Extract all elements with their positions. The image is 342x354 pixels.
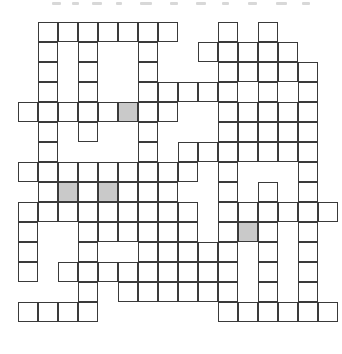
crossword-cell[interactable] xyxy=(18,262,38,282)
crossword-cell[interactable] xyxy=(138,82,158,102)
crossword-cell[interactable] xyxy=(178,242,198,262)
crossword-cell[interactable] xyxy=(218,202,238,222)
crossword-cell[interactable] xyxy=(318,202,338,222)
crossword-cell[interactable] xyxy=(238,142,258,162)
crossword-cell[interactable] xyxy=(38,142,58,162)
crossword-cell[interactable] xyxy=(138,262,158,282)
crossword-cell[interactable] xyxy=(118,182,138,202)
crossword-cell[interactable] xyxy=(298,202,318,222)
crossword-cell[interactable] xyxy=(98,222,118,242)
crossword-cell[interactable] xyxy=(298,282,318,302)
crossword-cell[interactable] xyxy=(38,22,58,42)
crossword-cell[interactable] xyxy=(298,82,318,102)
crossword-cell[interactable] xyxy=(218,222,238,242)
crossword-cell-shaded[interactable] xyxy=(118,102,138,122)
crossword-cell[interactable] xyxy=(38,102,58,122)
crossword-cell[interactable] xyxy=(258,282,278,302)
crossword-cell[interactable] xyxy=(98,102,118,122)
crossword-cell[interactable] xyxy=(98,22,118,42)
crossword-cell[interactable] xyxy=(58,162,78,182)
crossword-cell[interactable] xyxy=(258,122,278,142)
crossword-cell[interactable] xyxy=(118,162,138,182)
crossword-cell[interactable] xyxy=(158,202,178,222)
crossword-cell[interactable] xyxy=(138,162,158,182)
crossword-cell[interactable] xyxy=(218,102,238,122)
crossword-cell[interactable] xyxy=(98,202,118,222)
crossword-cell[interactable] xyxy=(278,302,298,322)
crossword-cell[interactable] xyxy=(18,102,38,122)
crossword-cell[interactable] xyxy=(78,242,98,262)
crossword-cell[interactable] xyxy=(178,222,198,242)
crossword-cell[interactable] xyxy=(78,222,98,242)
crossword-cell[interactable] xyxy=(258,302,278,322)
crossword-cell[interactable] xyxy=(138,122,158,142)
crossword-cell[interactable] xyxy=(198,82,218,102)
crossword-cell[interactable] xyxy=(98,262,118,282)
crossword-cell[interactable] xyxy=(278,202,298,222)
crossword-cell[interactable] xyxy=(78,182,98,202)
crossword-cell[interactable] xyxy=(58,102,78,122)
crossword-cell[interactable] xyxy=(278,122,298,142)
crossword-cell[interactable] xyxy=(218,62,238,82)
crossword-cell[interactable] xyxy=(158,182,178,202)
crossword-cell[interactable] xyxy=(218,122,238,142)
crossword-cell[interactable] xyxy=(298,162,318,182)
crossword-cell[interactable] xyxy=(198,282,218,302)
crossword-cell[interactable] xyxy=(78,282,98,302)
crossword-cell[interactable] xyxy=(98,162,118,182)
crossword-cell[interactable] xyxy=(18,222,38,242)
crossword-cell[interactable] xyxy=(218,182,238,202)
crossword-cell[interactable] xyxy=(258,262,278,282)
crossword-cell[interactable] xyxy=(138,282,158,302)
crossword-cell[interactable] xyxy=(178,282,198,302)
crossword-cell[interactable] xyxy=(58,202,78,222)
crossword-cell-shaded[interactable] xyxy=(58,182,78,202)
crossword-cell[interactable] xyxy=(18,202,38,222)
crossword-cell[interactable] xyxy=(258,82,278,102)
crossword-cell[interactable] xyxy=(38,122,58,142)
crossword-grid[interactable] xyxy=(18,22,338,342)
crossword-cell[interactable] xyxy=(78,102,98,122)
crossword-cell[interactable] xyxy=(218,162,238,182)
crossword-cell[interactable] xyxy=(158,262,178,282)
crossword-cell[interactable] xyxy=(258,202,278,222)
crossword-cell[interactable] xyxy=(258,142,278,162)
crossword-cell[interactable] xyxy=(78,122,98,142)
crossword-cell[interactable] xyxy=(158,242,178,262)
crossword-cell[interactable] xyxy=(38,42,58,62)
crossword-cell[interactable] xyxy=(158,162,178,182)
crossword-cell[interactable] xyxy=(278,62,298,82)
crossword-cell[interactable] xyxy=(138,102,158,122)
crossword-cell[interactable] xyxy=(218,282,238,302)
crossword-cell[interactable] xyxy=(118,22,138,42)
crossword-cell[interactable] xyxy=(198,242,218,262)
crossword-cell[interactable] xyxy=(218,42,238,62)
crossword-cell[interactable] xyxy=(298,62,318,82)
crossword-cell[interactable] xyxy=(138,142,158,162)
crossword-cell[interactable] xyxy=(178,142,198,162)
crossword-cell[interactable] xyxy=(38,302,58,322)
crossword-cell[interactable] xyxy=(298,182,318,202)
crossword-cell[interactable] xyxy=(138,222,158,242)
crossword-cell[interactable] xyxy=(78,202,98,222)
crossword-cell[interactable] xyxy=(218,22,238,42)
crossword-cell[interactable] xyxy=(118,202,138,222)
crossword-cell[interactable] xyxy=(238,62,258,82)
crossword-cell[interactable] xyxy=(38,162,58,182)
crossword-cell[interactable] xyxy=(118,262,138,282)
crossword-cell[interactable] xyxy=(238,202,258,222)
crossword-cell-shaded[interactable] xyxy=(98,182,118,202)
crossword-cell[interactable] xyxy=(58,22,78,42)
crossword-cell[interactable] xyxy=(218,302,238,322)
crossword-cell[interactable] xyxy=(38,62,58,82)
crossword-cell[interactable] xyxy=(238,42,258,62)
crossword-cell[interactable] xyxy=(138,62,158,82)
crossword-cell-shaded[interactable] xyxy=(238,222,258,242)
crossword-cell[interactable] xyxy=(158,22,178,42)
crossword-cell[interactable] xyxy=(58,302,78,322)
crossword-cell[interactable] xyxy=(38,82,58,102)
crossword-cell[interactable] xyxy=(298,102,318,122)
crossword-cell[interactable] xyxy=(138,242,158,262)
crossword-cell[interactable] xyxy=(18,302,38,322)
crossword-cell[interactable] xyxy=(118,282,138,302)
